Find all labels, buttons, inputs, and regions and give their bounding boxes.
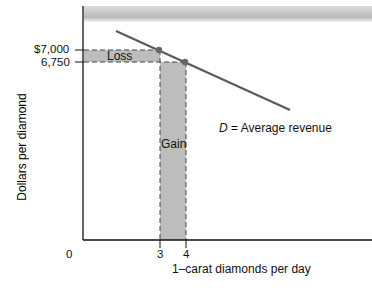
gain-area (160, 62, 186, 240)
y-axis-label: Dollars per diamond (15, 87, 29, 207)
gain-label: Gain (161, 137, 186, 151)
point-q4 (182, 59, 188, 65)
demand-label: D = Average revenue (219, 121, 332, 135)
x-tick-3: 3 (157, 248, 163, 260)
loss-label: Loss (107, 49, 132, 63)
demand-line (116, 31, 290, 110)
y-tick-6750: 6,750 (41, 56, 70, 68)
x-tick-4: 4 (183, 248, 189, 260)
origin-label: 0 (66, 248, 72, 260)
point-q3 (156, 47, 162, 53)
y-tick-7000: $7,000 (34, 43, 69, 55)
x-axis-label: 1–carat diamonds per day (172, 262, 311, 276)
